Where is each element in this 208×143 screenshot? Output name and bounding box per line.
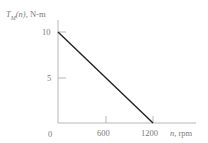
torque-speed-line	[58, 32, 153, 123]
x-tick-label-600: 600	[97, 129, 110, 138]
chart-plot-area	[0, 0, 208, 143]
x-tick-label-1200: 1200	[141, 129, 158, 138]
y-axis-label: TM(n), N-m	[6, 10, 46, 21]
y-tick-label-5: 5	[47, 74, 51, 83]
y-tick-label-10: 10	[42, 28, 51, 37]
x-axis-label: n, rpm	[170, 129, 192, 138]
origin-label: 0	[48, 130, 52, 139]
